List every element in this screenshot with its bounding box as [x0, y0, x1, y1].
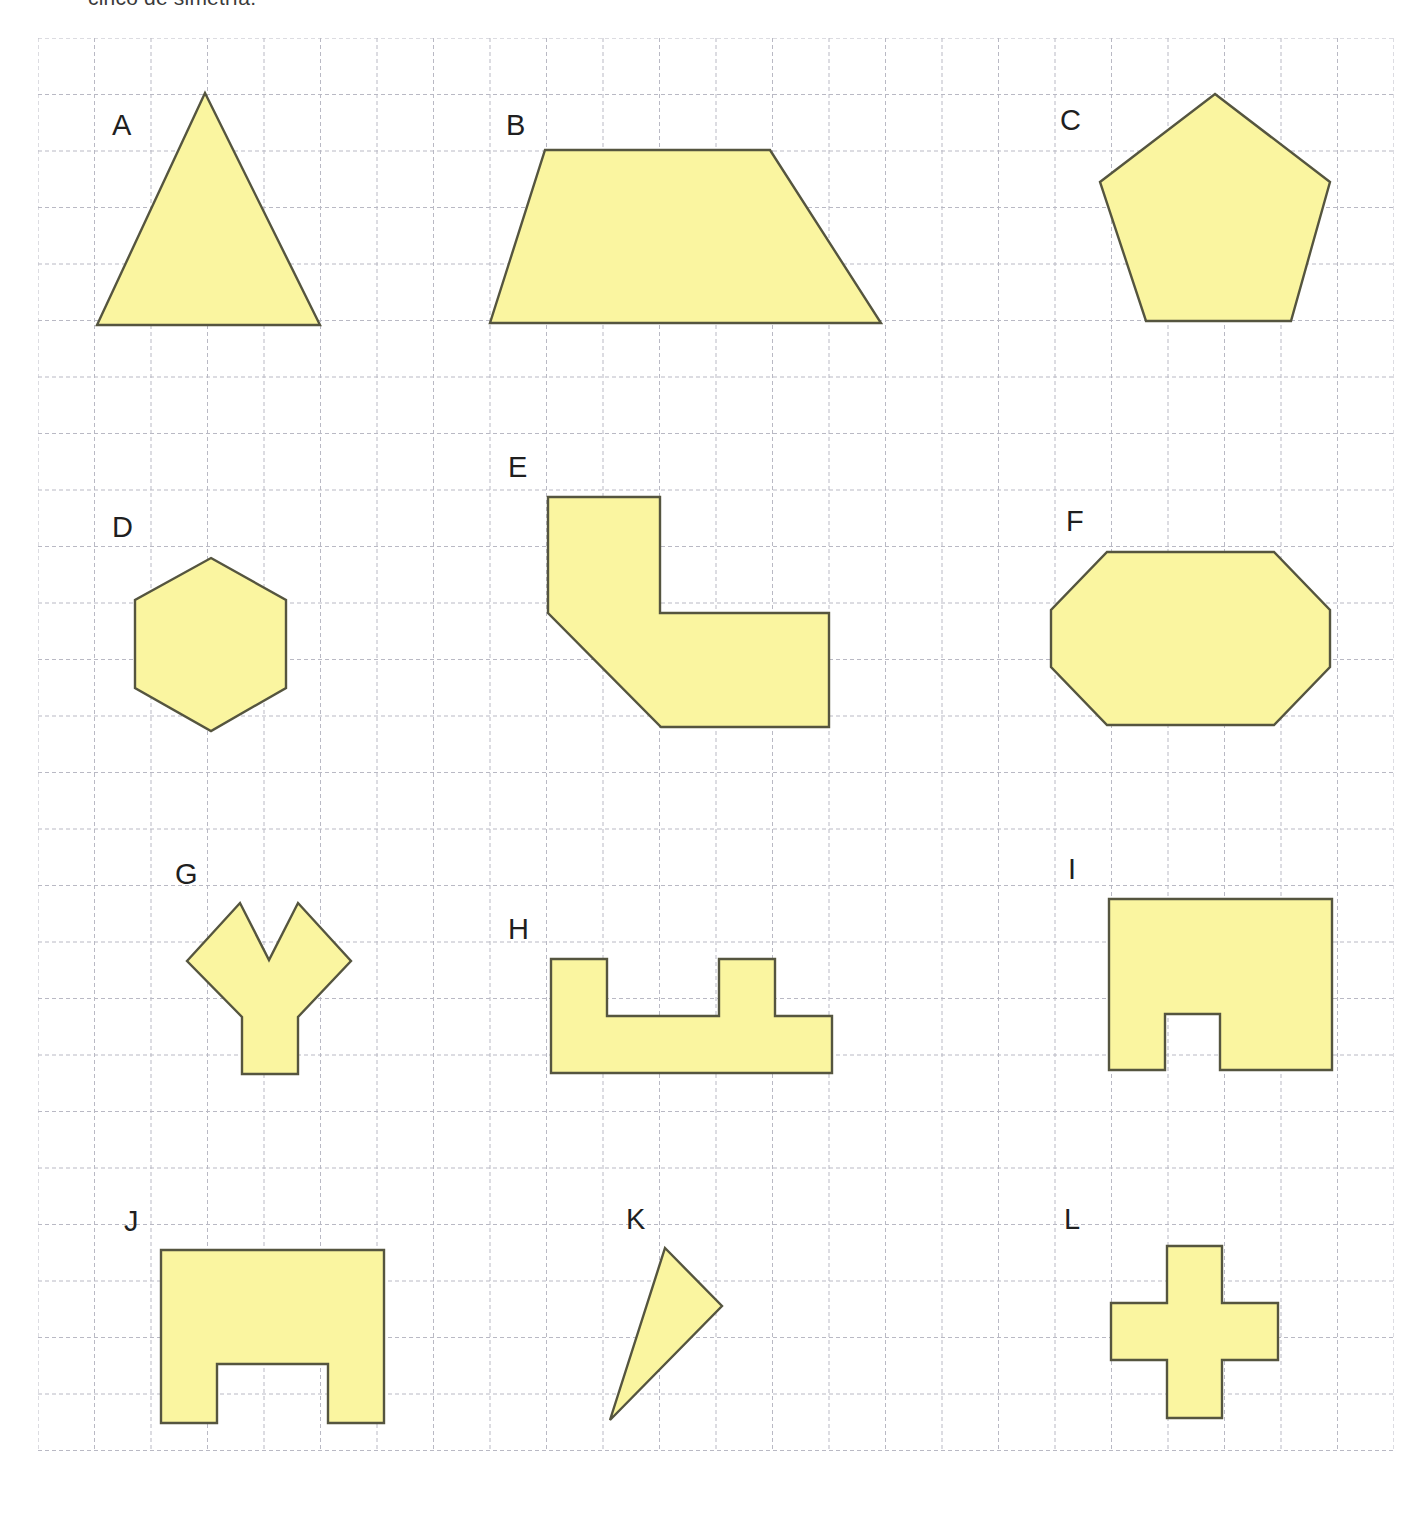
shape-label-a: A: [112, 111, 131, 140]
shape-label-k: K: [626, 1205, 645, 1234]
instruction-text: cinco de simetría.: [88, 0, 256, 6]
grid-lines: [38, 38, 1394, 1451]
shape-label-d: D: [112, 513, 133, 542]
shape-label-j: J: [124, 1207, 139, 1236]
shape-label-h: H: [508, 915, 529, 944]
shape-label-l: L: [1064, 1205, 1080, 1234]
shape-label-c: C: [1060, 106, 1081, 135]
shape-label-f: F: [1066, 507, 1084, 536]
grid-paper: [38, 38, 1394, 1451]
shape-label-g: G: [175, 860, 198, 889]
shape-label-e: E: [508, 453, 527, 482]
geometry-worksheet: cinco de simetría. ABCDEFGHIJKL: [0, 0, 1423, 1518]
shape-label-b: B: [506, 111, 525, 140]
shape-label-i: I: [1068, 855, 1076, 884]
